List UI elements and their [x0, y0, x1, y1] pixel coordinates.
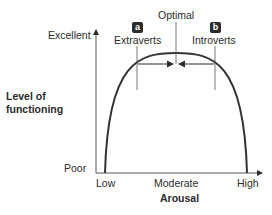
badge-a: a [132, 22, 143, 33]
x-low-label: Low [96, 178, 115, 189]
x-axis-title: Arousal [160, 193, 199, 204]
y-bottom-label: Poor [64, 163, 86, 174]
y-axis-title-line1: Level of [6, 91, 46, 102]
x-high-label: High [237, 178, 259, 189]
extraverts-label: Extraverts [114, 35, 161, 46]
optimal-label: Optimal [158, 10, 194, 21]
badge-b: b [210, 22, 221, 33]
introverts-label: Introverts [192, 35, 236, 46]
y-top-label: Excellent [48, 30, 91, 41]
y-axis-title-line2: functioning [6, 104, 63, 115]
arousal-curve [105, 53, 247, 173]
x-mid-label: Moderate [154, 178, 198, 189]
